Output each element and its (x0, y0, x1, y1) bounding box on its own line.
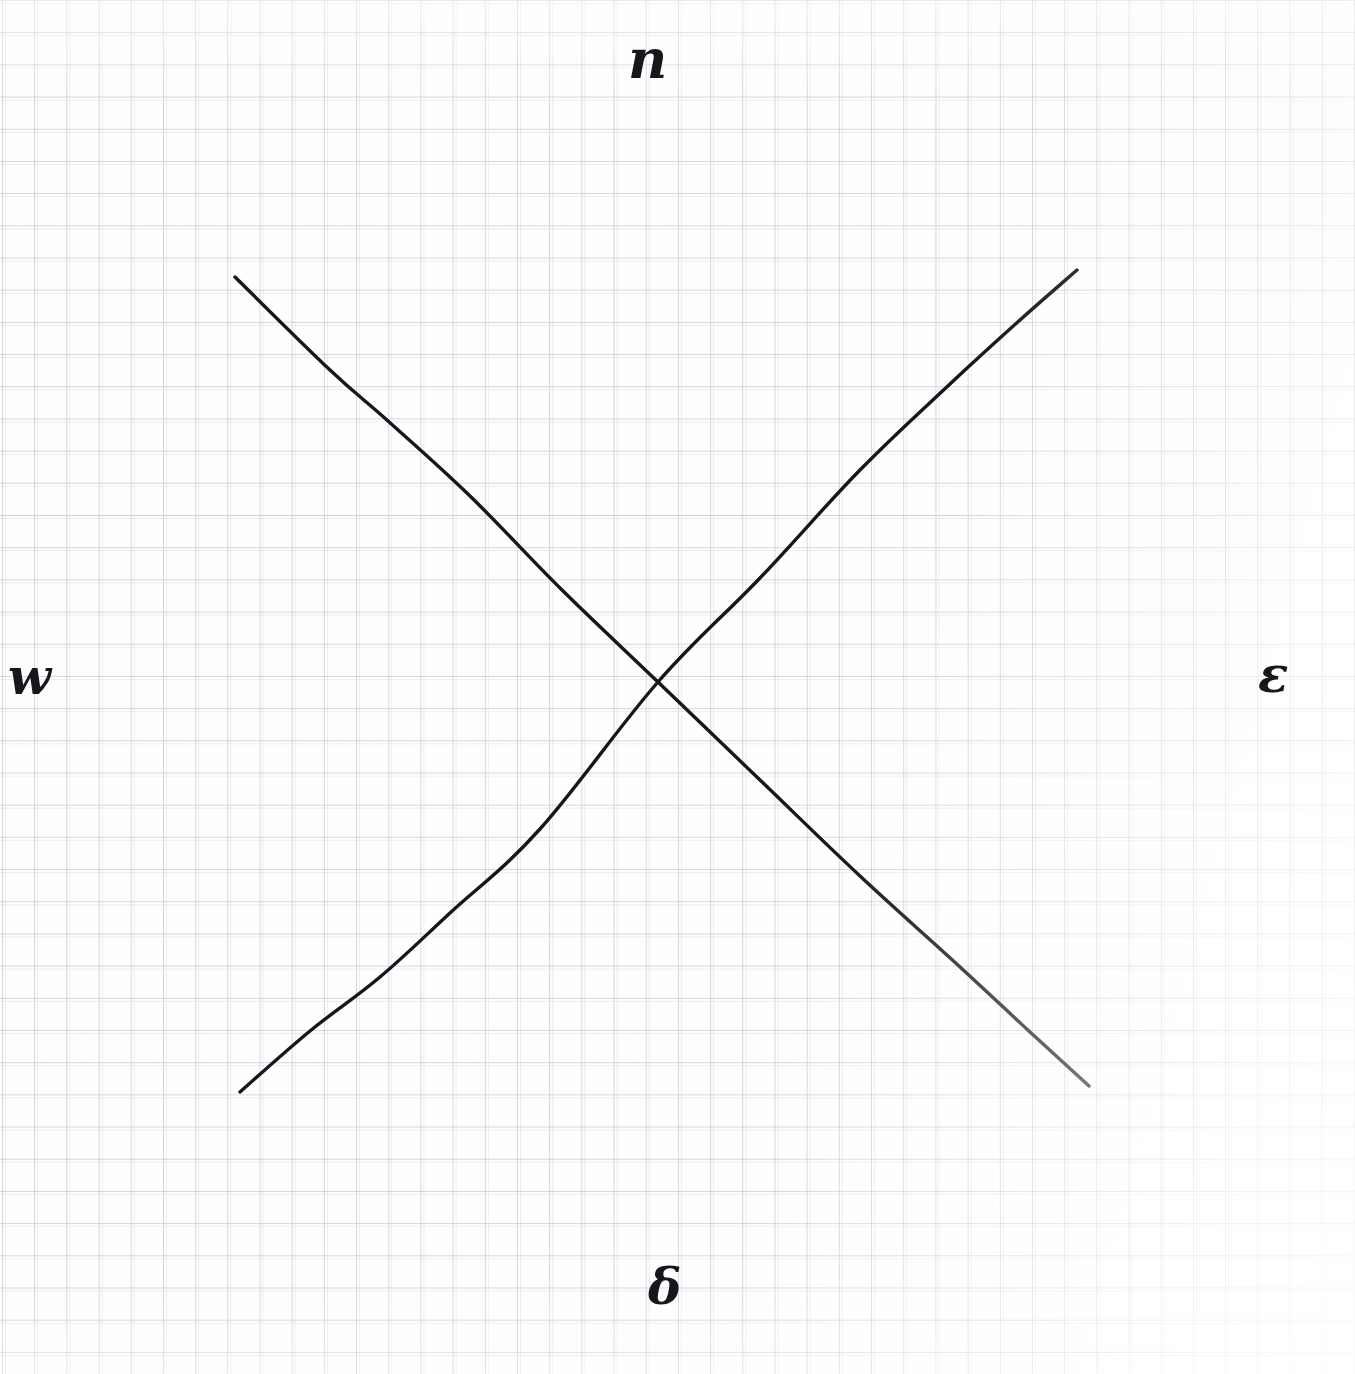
west-label: w (8, 652, 51, 702)
hand-drawn-sketch (0, 0, 1355, 1374)
descending-line (235, 277, 1089, 1086)
north-label: n (628, 32, 667, 86)
east-label: ε (1258, 650, 1288, 700)
south-label: δ (648, 1262, 681, 1312)
graph-paper-canvas: n ε δ w (0, 0, 1355, 1374)
ascending-line (240, 270, 1077, 1092)
